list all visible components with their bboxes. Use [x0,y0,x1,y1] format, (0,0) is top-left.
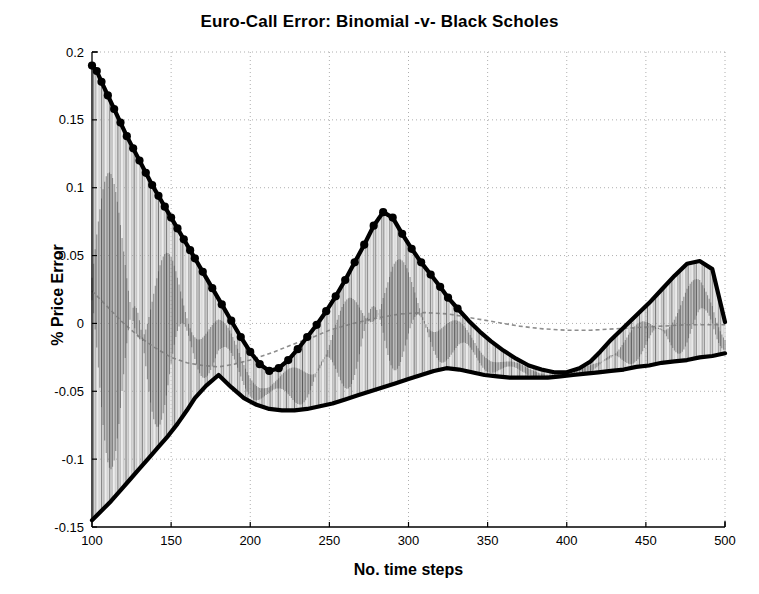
x-tick-label: 500 [714,533,736,548]
x-tick-label: 150 [160,533,182,548]
x-tick-label: 400 [556,533,578,548]
y-tick-label: 0.15 [59,112,84,127]
plot-area: 100150200250300350400450500 -0.15-0.1-0.… [0,0,759,594]
x-tick-label: 100 [81,533,103,548]
x-tick-label: 300 [398,533,420,548]
y-tick-label: 0 [77,316,84,331]
chart-figure: Euro-Call Error: Binomial -v- Black Scho… [0,0,759,594]
x-axis-tick-labels: 100150200250300350400450500 [81,533,736,548]
y-tick-label: -0.1 [62,452,84,467]
x-tick-label: 250 [319,533,341,548]
x-axis-label: No. time steps [92,561,725,579]
x-tick-label: 450 [635,533,657,548]
y-tick-label: 0.1 [66,180,84,195]
y-axis-label: % Price Error [49,215,67,375]
y-tick-label: -0.05 [54,384,84,399]
x-tick-label: 200 [239,533,261,548]
y-tick-label: -0.15 [54,520,84,535]
y-tick-label: 0.2 [66,45,84,60]
x-tick-label: 350 [477,533,499,548]
